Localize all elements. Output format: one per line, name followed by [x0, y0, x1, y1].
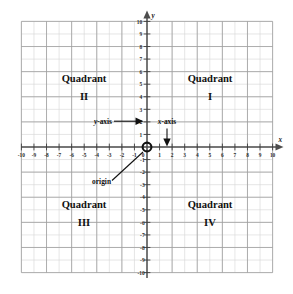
y-tick-label: -8 [140, 245, 145, 251]
y-tick-label: -2 [140, 169, 145, 175]
x-axis-name: x [278, 136, 283, 144]
x-tick-label: -4 [95, 152, 100, 158]
svg-text:x-axis: x-axis [157, 117, 177, 126]
x-tick-label: 10 [270, 152, 276, 158]
quadrant-i-word: Quadrant [188, 73, 233, 84]
y-tick-label: -9 [140, 257, 145, 263]
x-tick-label: 7 [234, 152, 237, 158]
y-tick-label: -7 [140, 232, 145, 238]
y-tick-label: 5 [139, 81, 142, 87]
y-tick-label: -3 [140, 182, 145, 188]
y-tick-label: 8 [139, 44, 142, 50]
x-tick-label: 3 [183, 152, 186, 158]
y-tick-label: 4 [139, 94, 142, 100]
x-tick-label: 9 [259, 152, 262, 158]
x-tick-label: -3 [107, 152, 112, 158]
x-tick-label: 8 [246, 152, 249, 158]
y-tick-label: 10 [137, 19, 143, 25]
y-tick-label: 3 [139, 107, 142, 113]
y-tick-label: -6 [140, 220, 145, 226]
svg-text:y-axis: y-axis [93, 117, 112, 126]
x-tick-label: -10 [18, 152, 25, 158]
quadrant-ii-numeral: II [80, 91, 88, 102]
y-tick-label: 9 [139, 31, 142, 37]
x-tick-label: -9 [32, 152, 37, 158]
y-tick-label: 6 [139, 69, 142, 75]
coordinate-plane-figure: x y [0, 0, 293, 294]
x-axis-callout-rest: -axis [161, 117, 176, 126]
x-tick-label: -2 [120, 152, 125, 158]
quadrant-ii-word: Quadrant [62, 73, 107, 84]
origin-callout-label: origin [92, 177, 111, 186]
y-tick-label: -4 [140, 194, 145, 200]
x-tick-label: 2 [171, 152, 174, 158]
quadrant-iv-word: Quadrant [188, 199, 233, 210]
y-tick-label: 7 [139, 56, 142, 62]
quadrant-i-numeral: I [208, 91, 212, 102]
x-tick-label: -1 [132, 152, 137, 158]
quadrant-iv-numeral: IV [204, 217, 216, 228]
y-tick-label: -10 [137, 270, 144, 276]
quadrant-iii-word: Quadrant [62, 199, 107, 210]
y-axis-callout-rest: -axis [97, 117, 112, 126]
y-tick-label: 1 [139, 132, 142, 138]
x-tick-label: 6 [221, 152, 224, 158]
quadrant-iii-numeral: III [78, 217, 90, 228]
x-tick-label: -5 [82, 152, 87, 158]
x-tick-label: 1 [158, 152, 161, 158]
x-tick-label: -7 [57, 152, 62, 158]
x-tick-label: -6 [69, 152, 74, 158]
y-tick-label: -1 [140, 157, 145, 163]
x-tick-label: -8 [44, 152, 49, 158]
y-tick-label: -5 [140, 207, 145, 213]
x-tick-label: 5 [208, 152, 211, 158]
x-tick-label: 4 [196, 152, 199, 158]
